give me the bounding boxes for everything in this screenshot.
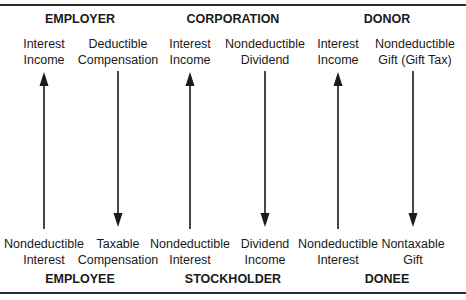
entity-donee: DONEE <box>312 272 462 286</box>
label-line: Nondeductible <box>363 36 466 52</box>
bottom-rule <box>0 292 466 294</box>
entity-stockholder: STOCKHOLDER <box>158 272 308 286</box>
bottom-label-nontaxable-gift: Nontaxable Gift <box>365 236 461 268</box>
label-line: Nontaxable <box>365 236 461 252</box>
arrow-up-icon <box>332 72 344 232</box>
label-line: Gift (Gift Tax) <box>363 52 466 68</box>
entity-employee: EMPLOYEE <box>5 272 155 286</box>
arrow-down-icon <box>112 71 124 231</box>
entity-corporation: CORPORATION <box>158 12 308 26</box>
arrow-up-icon <box>184 72 196 232</box>
arrow-down-icon <box>407 71 419 231</box>
arrow-up-icon <box>38 72 50 232</box>
top-rule <box>0 4 466 6</box>
arrow-down-icon <box>259 71 271 231</box>
entity-donor: DONOR <box>312 12 462 26</box>
top-label-nondeductible-gift: Nondeductible Gift (Gift Tax) <box>363 36 466 68</box>
entity-employer: EMPLOYER <box>5 12 155 26</box>
label-line: Gift <box>365 252 461 268</box>
